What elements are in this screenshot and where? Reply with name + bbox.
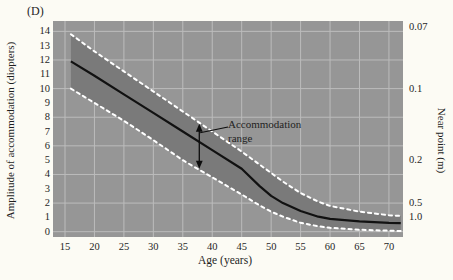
y-axis-label-left: Amplitude of accommodation (diopters) (4, 21, 19, 241)
x-tick-label: 20 (79, 241, 109, 253)
x-tick-label: 70 (374, 241, 404, 253)
x-tick-label: 45 (227, 241, 257, 253)
x-tick-label: 65 (345, 241, 375, 253)
x-axis-label: Age (years) (125, 254, 325, 266)
annotation-line-1: Accommodation (228, 118, 301, 132)
y-tick-label-right: 0.1 (409, 83, 441, 95)
y-tick-label-left: 10 (26, 83, 50, 95)
y-tick-label-right: 0.2 (409, 154, 441, 166)
y-tick-label-left: 12 (26, 54, 50, 66)
y-tick-label-left: 14 (26, 25, 50, 37)
x-tick-label: 40 (197, 241, 227, 253)
y-tick-label-left: 13 (26, 40, 50, 52)
panel-label: (D) (27, 4, 44, 19)
y-tick-label-right: 0.07 (409, 21, 441, 33)
accommodation-age-figure: (D) Amplitude of accommodation (diopters… (0, 0, 453, 280)
y-tick-label-left: 5 (26, 154, 50, 166)
y-tick-label-right: 0.5 (409, 197, 441, 209)
y-tick-label-right: 1.0 (409, 211, 441, 223)
y-tick-label-left: 7 (26, 126, 50, 138)
y-tick-label-left: 11 (26, 68, 50, 80)
y-tick-label-left: 6 (26, 140, 50, 152)
x-tick-label: 50 (256, 241, 286, 253)
x-tick-label: 60 (315, 241, 345, 253)
y-tick-label-left: 9 (26, 97, 50, 109)
x-tick-label: 35 (168, 241, 198, 253)
x-tick-label: 15 (50, 241, 80, 253)
y-tick-label-left: 2 (26, 197, 50, 209)
annotation-line-2: range (228, 132, 301, 146)
accommodation-range-annotation: Accommodation range (228, 118, 301, 145)
y-tick-label-left: 8 (26, 111, 50, 123)
y-tick-label-left: 0 (26, 226, 50, 238)
x-tick-label: 25 (109, 241, 139, 253)
y-tick-label-left: 3 (26, 183, 50, 195)
x-tick-label: 30 (138, 241, 168, 253)
y-tick-label-left: 1 (26, 211, 50, 223)
y-axis-label-right: Near point (m) (433, 91, 448, 191)
x-tick-label: 55 (286, 241, 316, 253)
y-tick-label-left: 4 (26, 168, 50, 180)
